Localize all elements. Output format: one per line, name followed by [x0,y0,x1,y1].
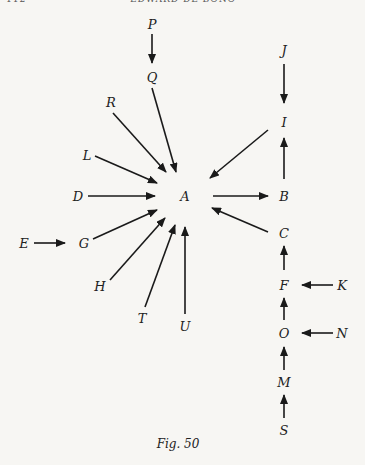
node-I: I [281,115,286,130]
node-R: R [106,95,116,110]
arrow-G-to-A [93,210,157,239]
node-H: H [94,279,105,294]
node-G: G [79,236,89,251]
node-J: J [281,43,286,58]
node-U: U [180,319,191,334]
arrow-L-to-A [95,156,157,183]
node-P: P [148,17,157,32]
node-O: O [279,326,290,341]
node-T: T [138,311,147,326]
figure-caption: Fig. 50 [157,437,200,451]
arrow-I-to-A [210,130,268,178]
arrow-C-to-A [212,208,268,232]
node-C: C [279,226,289,241]
node-N: N [336,326,347,341]
node-B: B [279,189,289,204]
node-L: L [83,148,92,163]
node-F: F [279,278,288,293]
node-K: K [337,278,347,293]
node-E: E [19,236,29,251]
arrow-diagram [0,0,365,465]
node-S: S [280,423,289,438]
node-Q: Q [147,70,158,85]
node-A: A [180,189,189,204]
arrow-T-to-A [145,225,175,307]
node-D: D [73,189,83,204]
node-M: M [277,375,290,390]
arrow-R-to-A [113,113,166,172]
